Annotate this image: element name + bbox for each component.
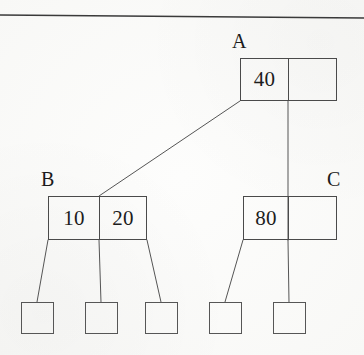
node-b: 10 20 (48, 196, 147, 240)
leaf-node (273, 302, 306, 334)
leaf-node (21, 302, 54, 334)
edge-b-to-leaf-3 (147, 240, 161, 302)
edge-c-to-leaf-4 (225, 240, 243, 302)
edge-a-to-b (99, 101, 240, 196)
leaf-node (145, 302, 178, 334)
node-label-c: C (327, 169, 340, 189)
node-c-cell-1 (289, 197, 336, 239)
edge-c-to-leaf-5 (288, 240, 289, 302)
diagram-line-layer (0, 0, 364, 355)
node-label-a: A (232, 31, 246, 51)
leaf-node (85, 302, 118, 334)
node-c-cell-0: 80 (244, 197, 289, 239)
node-label-b: B (41, 169, 54, 189)
node-a: 40 (240, 58, 337, 101)
leaf-node (209, 302, 242, 334)
horizontal-rule (0, 15, 364, 18)
node-b-cell-1: 20 (100, 197, 146, 239)
top-rule-group (0, 15, 364, 18)
figure-canvas: A 40 B 10 20 C 80 (0, 0, 364, 355)
node-a-cell-0: 40 (241, 59, 289, 100)
node-a-cell-1 (289, 59, 336, 100)
edge-b-to-leaf-1 (37, 240, 48, 302)
node-c: 80 (243, 196, 337, 240)
edge-b-to-leaf-2 (99, 240, 101, 302)
node-b-cell-0: 10 (49, 197, 100, 239)
